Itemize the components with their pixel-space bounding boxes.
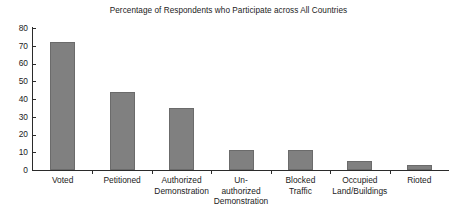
y-axis-tick <box>33 28 36 29</box>
x-axis-tick-label-line: Land/Buildings <box>312 186 408 197</box>
y-axis-tick-label: 60 <box>0 59 28 67</box>
bar <box>347 161 372 170</box>
y-axis-tick <box>33 170 36 171</box>
y-axis-tick <box>33 152 36 153</box>
x-axis-tick <box>390 171 391 174</box>
bar-chart: Percentage of Respondents who Participat… <box>0 0 457 219</box>
y-axis-tick-label: 80 <box>0 24 28 32</box>
y-axis-tick-label: 40 <box>0 95 28 103</box>
bar <box>50 42 75 170</box>
y-axis-tick <box>33 64 36 65</box>
y-axis-tick-label: 70 <box>0 42 28 50</box>
x-axis-line <box>32 170 449 171</box>
bar <box>288 150 313 170</box>
x-axis-tick <box>152 171 153 174</box>
y-axis-tick <box>33 135 36 136</box>
x-axis-tick-label-line: Demonstration <box>193 196 289 207</box>
x-axis-tick <box>330 171 331 174</box>
x-axis-tick-label-line: Rioted <box>371 175 457 186</box>
x-axis-tick-label: Rioted <box>371 175 457 186</box>
y-axis-tick <box>33 99 36 100</box>
y-axis-tick-label: 20 <box>0 130 28 138</box>
y-axis-tick <box>33 81 36 82</box>
y-axis-tick-label: 30 <box>0 113 28 121</box>
y-axis-tick-label: 10 <box>0 148 28 156</box>
y-axis-tick-label: 50 <box>0 77 28 85</box>
x-axis-tick <box>211 171 212 174</box>
x-axis-tick <box>92 171 93 174</box>
y-axis-tick <box>33 46 36 47</box>
chart-title: Percentage of Respondents who Participat… <box>0 6 457 15</box>
y-axis-tick <box>33 117 36 118</box>
bar <box>407 165 432 170</box>
x-axis-tick <box>271 171 272 174</box>
y-axis-tick-label: 0 <box>0 166 28 174</box>
bar <box>229 150 254 170</box>
bar <box>110 92 135 170</box>
bar <box>169 108 194 170</box>
